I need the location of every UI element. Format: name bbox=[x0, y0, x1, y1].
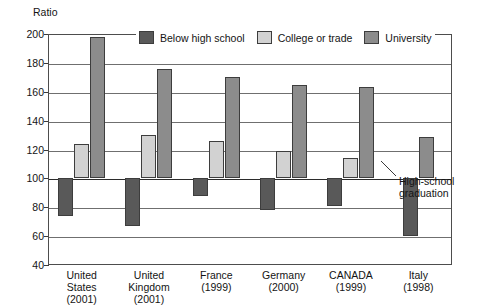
y-tick-label-120: 120 bbox=[18, 144, 44, 156]
bar bbox=[419, 137, 434, 179]
annotation-line-2: graduation bbox=[399, 188, 475, 200]
x-axis-label: CANADA(1999) bbox=[317, 270, 384, 305]
x-axis-labels: UnitedStates(2001)UnitedKingdom(2001)Fra… bbox=[48, 270, 452, 305]
legend-label: Below high school bbox=[160, 32, 245, 44]
baseline-annotation: High-school graduation bbox=[399, 176, 475, 199]
x-axis-label-line: (1998) bbox=[385, 282, 452, 294]
x-axis-label-line: (1999) bbox=[183, 282, 250, 294]
y-tick-label-100: 100 bbox=[18, 172, 44, 184]
legend-label: University bbox=[385, 32, 431, 44]
x-axis-label: France(1999) bbox=[183, 270, 250, 305]
y-tick-label-60: 60 bbox=[18, 230, 44, 242]
bar bbox=[359, 87, 374, 178]
bar-group bbox=[250, 34, 317, 265]
x-axis-label-line: (2000) bbox=[250, 282, 317, 294]
bar bbox=[125, 178, 140, 226]
bar-group bbox=[48, 34, 115, 265]
bar bbox=[327, 178, 342, 205]
bar bbox=[292, 85, 307, 179]
legend-entry: University bbox=[364, 31, 431, 44]
y-axis-tick-labels: 200180160140120100806040 bbox=[14, 34, 44, 265]
legend-entry: Below high school bbox=[139, 31, 245, 44]
y-tick-mark-40 bbox=[44, 265, 49, 266]
x-axis-label: Germany(2000) bbox=[250, 270, 317, 305]
bar-group bbox=[183, 34, 250, 265]
x-axis-label: UnitedStates(2001) bbox=[48, 270, 115, 305]
y-tick-label-40: 40 bbox=[18, 259, 44, 271]
y-tick-label-160: 160 bbox=[18, 86, 44, 98]
bar bbox=[141, 135, 156, 178]
x-axis-label-line: (2001) bbox=[48, 294, 115, 305]
x-axis-label: UnitedKingdom(2001) bbox=[115, 270, 182, 305]
bar bbox=[157, 69, 172, 179]
chart-legend: Below high schoolCollege or tradeUnivers… bbox=[136, 29, 435, 46]
bar bbox=[209, 141, 224, 179]
bar bbox=[193, 178, 208, 195]
bar-group bbox=[317, 34, 384, 265]
bar-group bbox=[115, 34, 182, 265]
bar bbox=[225, 77, 240, 178]
x-axis-label-line: (1999) bbox=[317, 282, 384, 294]
bar bbox=[260, 178, 275, 210]
bar bbox=[58, 178, 73, 216]
x-axis-label: Italy(1998) bbox=[385, 270, 452, 305]
legend-swatch bbox=[257, 31, 272, 44]
bar bbox=[74, 144, 89, 179]
y-tick-label-80: 80 bbox=[18, 201, 44, 213]
bar-groups bbox=[48, 34, 452, 265]
bar-group bbox=[385, 34, 452, 265]
y-tick-label-180: 180 bbox=[18, 57, 44, 69]
y-tick-label-200: 200 bbox=[18, 28, 44, 40]
legend-label: College or trade bbox=[278, 32, 353, 44]
legend-swatch bbox=[364, 31, 379, 44]
legend-entry: College or trade bbox=[257, 31, 353, 44]
annotation-line-1: High-school bbox=[399, 176, 475, 188]
y-axis-title: Ratio bbox=[33, 6, 58, 18]
x-axis-label-line: Kingdom bbox=[115, 282, 182, 294]
x-axis-label-line: States bbox=[48, 282, 115, 294]
legend-swatch bbox=[139, 31, 154, 44]
bar bbox=[276, 151, 291, 178]
bar bbox=[343, 158, 358, 178]
x-axis-label-line: (2001) bbox=[115, 294, 182, 305]
bar bbox=[90, 37, 105, 178]
y-tick-label-140: 140 bbox=[18, 115, 44, 127]
